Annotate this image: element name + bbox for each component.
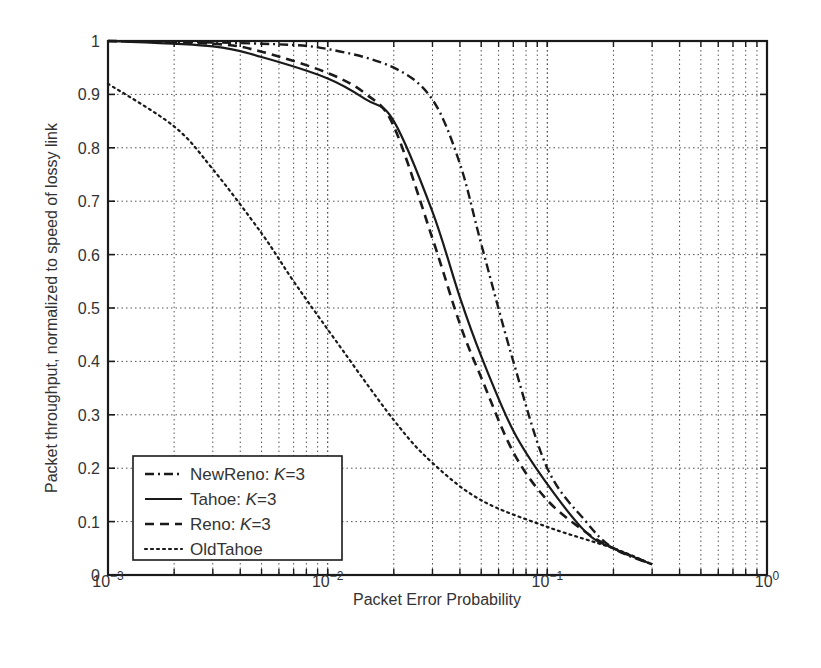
y-tick-label: 0.1	[78, 514, 100, 531]
x-axis-label: Packet Error Probability	[353, 591, 521, 608]
y-tick-label: 0.7	[78, 193, 100, 210]
x-tick-labels: 10−310−210−1100	[92, 569, 779, 590]
x-tick-label: 10−1	[532, 569, 564, 590]
x-tick-label: 10−3	[92, 569, 124, 590]
y-tick-label: 0.6	[78, 247, 100, 264]
y-tick-label: 0.8	[78, 140, 100, 157]
y-axis-label: Packet throughput, normalized to speed o…	[43, 122, 60, 493]
legend-label: Tahoe: K=3	[190, 490, 277, 509]
y-tick-label: 0.2	[78, 460, 100, 477]
y-tick-label: 0.3	[78, 407, 100, 424]
legend: NewReno: K=3Tahoe: K=3Reno: K=3OldTahoe	[133, 456, 342, 560]
throughput-chart: 00.10.20.30.40.50.60.70.80.91 10−310−210…	[0, 0, 821, 668]
y-tick-label: 0.4	[78, 353, 100, 370]
y-tick-label: 1	[91, 33, 100, 50]
legend-label: OldTahoe	[190, 540, 263, 559]
x-tick-label: 10−2	[312, 569, 344, 590]
legend-label: NewReno: K=3	[190, 465, 305, 484]
y-tick-label: 0.5	[78, 300, 100, 317]
y-tick-label: 0.9	[78, 86, 100, 103]
x-tick-label: 100	[755, 569, 780, 590]
legend-label: Reno: K=3	[190, 515, 271, 534]
y-tick-labels: 00.10.20.30.40.50.60.70.80.91	[78, 33, 100, 584]
